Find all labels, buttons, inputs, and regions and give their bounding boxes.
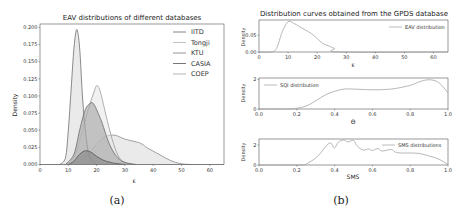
x-tick-label: 0.6 — [368, 111, 376, 117]
y-tick-label: 0.100 — [23, 93, 37, 99]
y-tick-label: 0 — [253, 162, 256, 168]
x-tick-label: 0.2 — [293, 111, 301, 117]
x-tick-label: 0.4 — [331, 111, 339, 117]
y-tick-label: 0 — [253, 106, 256, 112]
x-tick-label: 0.6 — [368, 167, 376, 173]
legend-eav-distribution: EAV distribution — [405, 24, 445, 30]
panel-b-caption: (b) — [333, 194, 349, 207]
x-tick-label: 30 — [343, 54, 349, 60]
y-tick-label: 0.05 — [245, 32, 256, 38]
y-tick-label: 0.200 — [23, 24, 37, 30]
x-tick-label: 0 — [38, 167, 41, 173]
x-tick-label: 0.8 — [406, 111, 414, 117]
panel-b-middle-xlabel: Θ — [351, 118, 356, 125]
legend-item-iitd: IITD — [191, 28, 204, 36]
panel-b-top-ylabel: Density — [240, 27, 247, 46]
x-tick-label: 40 — [150, 167, 156, 173]
y-tick-label: 0.075 — [23, 110, 37, 116]
legend-item-ktu: KTU — [191, 49, 204, 57]
panel-a-legend: IITDTongjiKTUCASIACOEP — [173, 28, 211, 78]
x-tick-label: 0.0 — [255, 111, 263, 117]
x-tick-label: 60 — [207, 167, 213, 173]
panel-a-xlabel: ε — [132, 177, 135, 184]
legend-sms-distributions: SMS distributions — [398, 142, 442, 148]
legend-item-tongji: Tongji — [190, 39, 210, 47]
panel-b-bottom-ylabel: Density — [240, 142, 247, 161]
y-tick-label: 0.175 — [23, 41, 37, 47]
y-tick-label: 0.00 — [245, 49, 256, 55]
x-tick-label: 0.2 — [293, 167, 301, 173]
x-tick-label: 20 — [93, 167, 99, 173]
x-tick-label: 0.4 — [331, 167, 339, 173]
x-tick-label: 50 — [178, 167, 184, 173]
x-tick-label: 0.0 — [255, 167, 263, 173]
x-tick-label: 0 — [257, 54, 260, 60]
x-tick-label: 20 — [314, 54, 320, 60]
y-tick-label: 0.050 — [23, 127, 37, 133]
x-tick-label: 1.0 — [444, 167, 452, 173]
y-tick-label: 2 — [253, 142, 256, 148]
x-tick-label: 10 — [65, 167, 71, 173]
x-tick-label: 1.0 — [444, 111, 452, 117]
x-tick-label: 30 — [122, 167, 128, 173]
x-tick-label: 0.8 — [406, 167, 414, 173]
legend-item-casia: CASIA — [191, 60, 211, 68]
figure: EAV distributions of different databases… — [0, 0, 467, 214]
panel-a-title: EAV distributions of different databases — [63, 14, 202, 22]
panel-b-top-xlabel: ε — [351, 61, 354, 68]
y-tick-label: 2 — [253, 76, 256, 82]
x-tick-label: 50 — [401, 54, 407, 60]
panel-a-ylabel: Density — [11, 93, 19, 116]
x-tick-label: 60 — [430, 54, 436, 60]
panel-a-y-ticks: 0.0000.0250.0500.0750.1000.1250.1500.175… — [23, 24, 40, 167]
legend-item-coep: COEP — [191, 70, 209, 78]
y-tick-label: 0.150 — [23, 58, 37, 64]
panel-b-middle-ylabel: Density — [240, 83, 247, 102]
panel-a-x-ticks: 0102030405060 — [38, 165, 213, 173]
y-tick-label: 0.025 — [23, 144, 37, 150]
panel-a-caption: (a) — [109, 194, 124, 207]
y-tick-label: 0.125 — [23, 76, 37, 82]
panel-b-charts: Distribution curves obtained from the GP… — [240, 10, 452, 207]
x-tick-label: 10 — [285, 54, 291, 60]
panel-b-bottom-xlabel: SMS — [347, 173, 360, 180]
panel-a-chart: EAV distributions of different databases… — [11, 14, 224, 207]
x-tick-label: 40 — [372, 54, 378, 60]
y-tick-label: 0.000 — [23, 161, 37, 167]
legend-sqi-distribution: SQI distribution — [280, 82, 319, 88]
panel-b-title: Distribution curves obtained from the GP… — [260, 10, 448, 18]
